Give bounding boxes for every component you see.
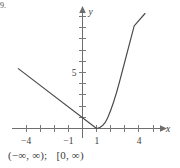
- x-tick-label-4: 4: [137, 136, 142, 146]
- x-tick-label-neg1: −1: [63, 136, 73, 146]
- y-tick-label-5: 5: [72, 68, 77, 78]
- x-tick-label-1: 1: [95, 136, 100, 146]
- graph-left-branch: [18, 69, 96, 129]
- answer-domain: (−∞, ∞);: [8, 149, 47, 161]
- answer-text: (−∞, ∞);[0, ∞): [8, 149, 84, 161]
- math-figure: 9.: [0, 0, 180, 168]
- x-axis-label: x: [165, 124, 171, 134]
- coordinate-plane-graph: x y −4 −1 1 4 5: [0, 0, 180, 168]
- graph-right-branch: [97, 14, 145, 129]
- y-axis-arrow-icon: [79, 6, 86, 13]
- problem-number: 9.: [0, 1, 7, 10]
- x-tick-label-neg4: −4: [21, 136, 31, 146]
- answer-range: [0, ∞): [56, 149, 83, 161]
- y-axis-label: y: [87, 7, 93, 17]
